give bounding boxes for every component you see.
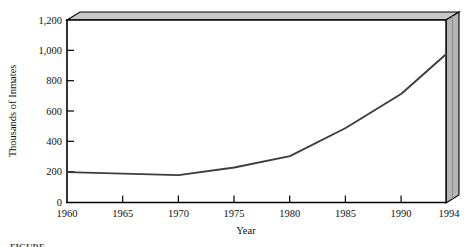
y-tick-label-0: 0 xyxy=(57,197,62,208)
x-tick-label-1980: 1980 xyxy=(279,208,300,219)
x-axis-tick-labels: 1960 1965 1970 1975 1980 1985 1990 1994 xyxy=(57,208,461,219)
figure-caption-partial: FIGURE xyxy=(10,243,340,247)
y-tick-label-1200: 1,200 xyxy=(38,15,62,26)
figure-container: 1,200 1,000 800 600 400 200 0 1960 1965 … xyxy=(0,0,473,247)
x-tick-label-1965: 1965 xyxy=(112,208,133,219)
y-tick-label-800: 800 xyxy=(46,75,62,86)
x-tick-label-1970: 1970 xyxy=(168,208,189,219)
y-tick-label-400: 400 xyxy=(46,136,62,147)
y-axis-title: Thousands of Inmates xyxy=(7,65,18,158)
x-tick-label-1960: 1960 xyxy=(57,208,78,219)
plot-area-background xyxy=(67,20,446,202)
y-axis-tick-labels: 1,200 1,000 800 600 400 200 0 xyxy=(38,15,62,209)
x-tick-label-1985: 1985 xyxy=(335,208,356,219)
x-tick-label-1994: 1994 xyxy=(439,208,461,219)
box-top-face xyxy=(67,12,459,20)
x-tick-label-1975: 1975 xyxy=(224,208,245,219)
line-chart: 1,200 1,000 800 600 400 200 0 1960 1965 … xyxy=(0,0,473,247)
y-tick-label-200: 200 xyxy=(46,166,62,177)
y-tick-label-1000: 1,000 xyxy=(38,45,62,56)
y-tick-label-600: 600 xyxy=(46,106,62,117)
x-axis-title: Year xyxy=(236,225,256,236)
x-tick-label-1990: 1990 xyxy=(391,208,412,219)
